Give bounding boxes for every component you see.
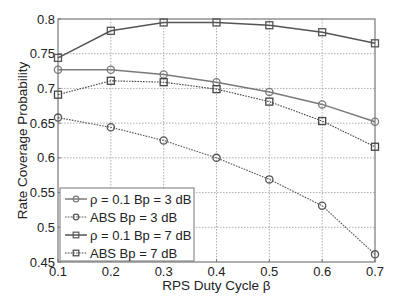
- x-tick-label: 0.5: [260, 264, 278, 279]
- y-tick-label: 0.5: [37, 220, 55, 235]
- x-tick-label: 0.4: [207, 264, 225, 279]
- x-tick-label: 0.3: [155, 264, 173, 279]
- x-tick-label: 0.6: [313, 264, 331, 279]
- y-axis-ticks: 0.450.50.550.60.650.70.750.8: [30, 12, 61, 270]
- y-tick-label: 0.8: [37, 12, 55, 27]
- x-axis-label: RPS Duty Cycle β: [162, 278, 271, 293]
- legend-label: ABS Bp = 7 dB: [90, 246, 177, 261]
- x-tick-label: 0.2: [102, 264, 120, 279]
- y-tick-label: 0.45: [30, 255, 55, 270]
- y-tick-label: 0.6: [37, 150, 55, 165]
- y-tick-label: 0.65: [30, 116, 55, 131]
- legend-label: ρ = 0.1 Bp = 7 dB: [90, 228, 191, 243]
- legend: ρ = 0.1 Bp = 3 dBABS Bp = 3 dBρ = 0.1 Bp…: [60, 188, 194, 261]
- y-axis-label: Rate Coverage Probability: [15, 61, 30, 219]
- y-tick-label: 0.55: [30, 185, 55, 200]
- y-tick-label: 0.75: [30, 46, 55, 61]
- x-tick-label: 0.7: [366, 264, 384, 279]
- line-chart: 0.10.20.30.40.50.60.7 0.450.50.550.60.65…: [0, 0, 395, 304]
- legend-label: ρ = 0.1 Bp = 3 dB: [90, 192, 191, 207]
- legend-label: ABS Bp = 3 dB: [90, 210, 177, 225]
- y-tick-label: 0.7: [37, 81, 55, 96]
